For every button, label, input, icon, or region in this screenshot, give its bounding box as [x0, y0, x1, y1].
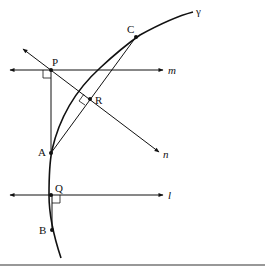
segment-AC	[51, 37, 136, 153]
right-angle-Q	[52, 195, 60, 203]
label-Q: Q	[55, 182, 63, 194]
label-B: B	[39, 224, 46, 236]
point-C	[134, 35, 138, 39]
label-m: m	[168, 64, 176, 76]
label-C: C	[127, 23, 134, 35]
label-n: n	[163, 148, 169, 160]
label-R: R	[95, 94, 103, 106]
point-Q	[49, 193, 53, 197]
point-R	[88, 97, 92, 101]
curve-gamma	[49, 12, 193, 258]
geometry-diagram: P C R A Q B m l n γ	[0, 0, 265, 269]
point-B	[50, 228, 54, 232]
point-P	[49, 68, 53, 72]
label-gamma: γ	[195, 5, 201, 17]
label-P: P	[52, 56, 58, 68]
point-A	[49, 151, 53, 155]
label-A: A	[38, 146, 46, 158]
label-l: l	[168, 189, 171, 201]
